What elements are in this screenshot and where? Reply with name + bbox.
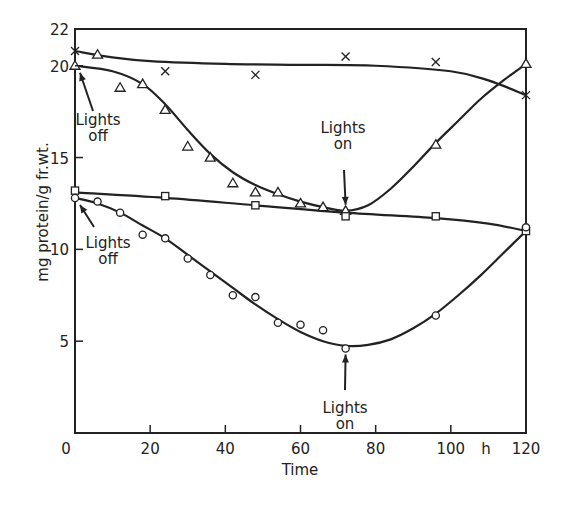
- marker-circles: [274, 319, 281, 326]
- marker-circles: [117, 209, 124, 216]
- marker-triangles: [183, 142, 193, 151]
- curve-crosses: [75, 51, 526, 95]
- marker-triangles: [431, 140, 441, 149]
- marker-crosses: [342, 53, 350, 61]
- marker-triangles: [521, 59, 531, 68]
- chart: 020406080100120 510152022 LightsoffLight…: [0, 0, 566, 510]
- marker-crosses: [161, 67, 169, 75]
- marker-squares: [162, 193, 169, 200]
- annotation-label: on: [334, 135, 353, 153]
- annotation-lights-on-bottom: Lightson: [322, 355, 367, 433]
- marker-triangles: [138, 79, 148, 88]
- x-tick-label: 20: [141, 440, 160, 458]
- x-axis-unit: h: [481, 440, 491, 458]
- x-tick-label: 40: [216, 440, 235, 458]
- y-tick-label: 20: [50, 58, 69, 76]
- annotation-label: on: [336, 415, 355, 433]
- marker-circles: [71, 194, 78, 201]
- x-tick-label: 100: [437, 440, 466, 458]
- annotations: LightsoffLightsoffLightsonLightson: [75, 73, 367, 433]
- marker-circles: [252, 294, 259, 301]
- marker-triangles: [228, 178, 238, 187]
- arrowhead-icon: [342, 355, 349, 363]
- marker-circles: [139, 231, 146, 238]
- marker-circles: [522, 224, 529, 231]
- y-tick-label: 22: [50, 21, 69, 39]
- marker-circles: [229, 292, 236, 299]
- arrowhead-icon: [79, 73, 86, 82]
- annotation-label: off: [98, 250, 118, 268]
- marker-crosses: [251, 71, 259, 79]
- y-tick-label: 15: [50, 150, 69, 168]
- arrowhead-icon: [342, 197, 349, 205]
- y-tick-label: 5: [59, 333, 69, 351]
- marker-circles: [432, 312, 439, 319]
- x-tick-label: 60: [291, 440, 310, 458]
- y-axis-title: mg protein/g fr.wt.: [34, 142, 52, 281]
- marker-triangles: [115, 83, 125, 92]
- marker-crosses: [432, 58, 440, 66]
- x-tick-label: 120: [512, 440, 541, 458]
- marker-circles: [94, 198, 101, 205]
- marker-triangles: [250, 187, 260, 196]
- x-axis-title: Time: [281, 461, 319, 479]
- marker-circles: [162, 235, 169, 242]
- marker-squares: [252, 202, 259, 209]
- data-markers: [70, 47, 531, 352]
- marker-circles: [184, 255, 191, 262]
- marker-squares: [432, 213, 439, 220]
- annotation-lights-on-top: Lightson: [320, 119, 365, 205]
- x-tick-label: 0: [61, 440, 71, 458]
- x-axis: 020406080100120: [61, 425, 540, 458]
- annotation-lights-off-top: Lightsoff: [75, 73, 120, 145]
- y-tick-label: 10: [50, 241, 69, 259]
- marker-circles: [342, 345, 349, 352]
- marker-squares: [71, 187, 78, 194]
- marker-triangles: [273, 187, 283, 196]
- marker-squares: [342, 213, 349, 220]
- marker-circles: [297, 321, 304, 328]
- x-tick-label: 80: [366, 440, 385, 458]
- marker-circles: [207, 271, 214, 278]
- marker-circles: [319, 327, 326, 334]
- annotation-label: off: [88, 127, 108, 145]
- y-axis: 510152022: [50, 21, 83, 351]
